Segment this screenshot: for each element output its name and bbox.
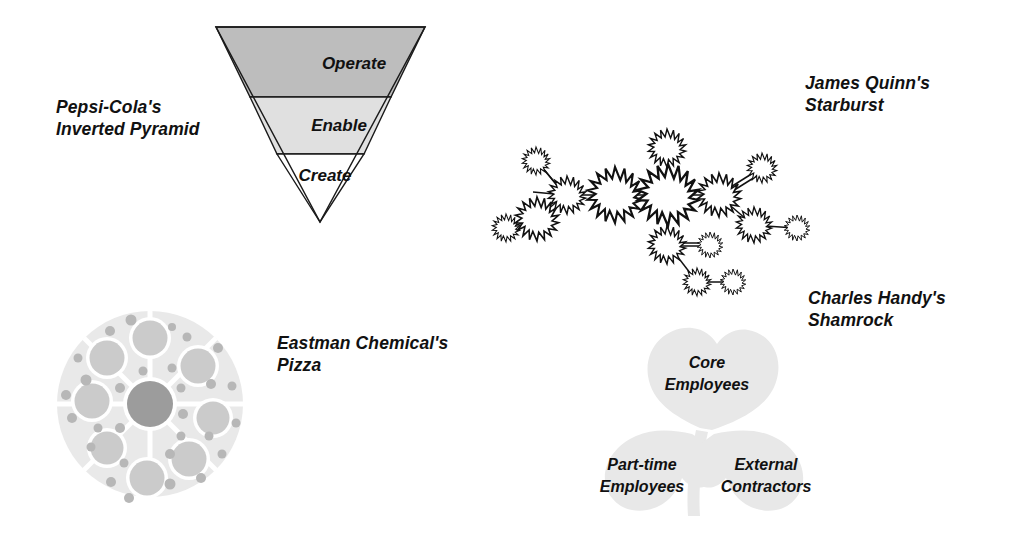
shamrock-label-external-line2: Contractors bbox=[721, 478, 812, 495]
starburst-node bbox=[784, 215, 809, 241]
inverted-pyramid-diagram: Operate Enable Create bbox=[206, 18, 436, 233]
shamrock-label-external-line1: External bbox=[734, 456, 798, 473]
pizza-hub bbox=[127, 381, 173, 427]
starburst-node bbox=[697, 173, 740, 217]
starburst-node bbox=[648, 129, 685, 167]
starburst-node bbox=[648, 226, 685, 264]
shamrock-label-parttime-line1: Part-time bbox=[607, 456, 676, 473]
starburst-node bbox=[736, 207, 771, 243]
pizza-diagram bbox=[50, 296, 250, 516]
figure-canvas: Operate Enable Create Pepsi-Cola's Inver… bbox=[0, 0, 1010, 551]
shamrock-label-core-line1: Core bbox=[689, 354, 726, 371]
starburst-node bbox=[588, 167, 643, 223]
starburst-node bbox=[697, 232, 722, 258]
starburst-node bbox=[492, 214, 519, 242]
shamrock-label-parttime-line2: Employees bbox=[600, 478, 685, 495]
starburst-node bbox=[638, 164, 699, 226]
shamrock-diagram: Core Employees Part-time Employees Exter… bbox=[578, 290, 828, 525]
shamrock-label-core-line2: Employees bbox=[665, 376, 750, 393]
caption-inverted-pyramid: Pepsi-Cola's Inverted Pyramid bbox=[56, 96, 200, 141]
pyramid-label-create: Create bbox=[299, 166, 352, 185]
pyramid-label-operate: Operate bbox=[322, 54, 386, 73]
caption-pizza: Eastman Chemical's Pizza bbox=[277, 332, 448, 377]
caption-starburst: James Quinn's Starburst bbox=[805, 72, 930, 117]
caption-shamrock: Charles Handy's Shamrock bbox=[808, 287, 946, 332]
pyramid-label-enable: Enable bbox=[311, 116, 367, 135]
starburst-nodes bbox=[492, 129, 809, 296]
starburst-diagram bbox=[470, 60, 800, 245]
